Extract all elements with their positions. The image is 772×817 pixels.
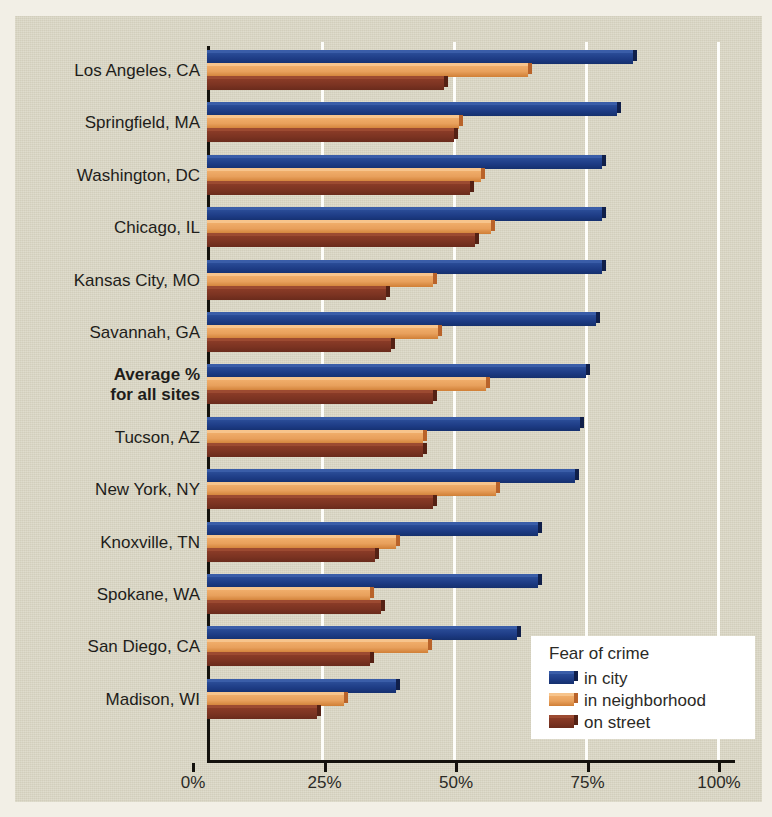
bar-end-face	[602, 207, 606, 218]
category-label: San Diego, CA	[0, 637, 200, 657]
bar-end-face	[396, 679, 400, 690]
bar-end-face	[459, 115, 463, 126]
bar-end-face	[423, 443, 427, 454]
x-tick	[455, 763, 458, 772]
legend-item-street: on street	[549, 712, 755, 734]
legend-item-city: in city	[549, 668, 755, 690]
bar-end-face	[433, 495, 437, 506]
category-label: Los Angeles, CA	[0, 61, 200, 81]
bar-front-face	[207, 341, 391, 352]
x-tick	[587, 763, 590, 772]
bar-end-face	[433, 273, 437, 284]
x-tick	[324, 763, 327, 772]
bar-street	[207, 79, 444, 90]
bar-front-face	[207, 708, 317, 719]
category-label: Kansas City, MO	[0, 271, 200, 291]
category-label: Knoxville, TN	[0, 533, 200, 553]
bar-end-face	[423, 430, 427, 441]
bar-front-face	[207, 79, 444, 90]
bar-row: Washington, DC	[15, 154, 762, 200]
chart-plot-area: Los Angeles, CASpringfield, MAWashington…	[15, 16, 762, 802]
category-label: New York, NY	[0, 480, 200, 500]
legend-label: in neighborhood	[584, 691, 706, 711]
bar-row: New York, NY	[15, 468, 762, 514]
legend-swatch-city	[549, 674, 574, 684]
bar-front-face	[207, 289, 386, 300]
bar-front-face	[207, 655, 370, 666]
category-label: Spokane, WA	[0, 585, 200, 605]
bar-row: Knoxville, TN	[15, 521, 762, 567]
bar-end-face	[344, 692, 348, 703]
bar-street	[207, 551, 375, 562]
bar-end-face	[396, 535, 400, 546]
bar-row: Los Angeles, CA	[15, 49, 762, 95]
x-tick-label: 25%	[307, 773, 341, 793]
bar-end-face	[596, 312, 600, 323]
bar-end-face	[496, 482, 500, 493]
bar-end-face	[633, 50, 637, 61]
bar-street	[207, 446, 423, 457]
bar-end-face	[428, 639, 432, 650]
bar-row: Average % for all sites	[15, 363, 762, 409]
bar-front-face	[207, 236, 475, 247]
x-axis-line	[207, 760, 735, 763]
bar-row: Spokane, WA	[15, 573, 762, 619]
bar-end-face	[370, 652, 374, 663]
bar-end-face	[375, 548, 379, 559]
bar-end-face	[586, 364, 590, 375]
bar-end-face	[475, 233, 479, 244]
legend-items: in cityin neighborhoodon street	[549, 668, 755, 734]
bar-street	[207, 131, 454, 142]
bar-street	[207, 498, 433, 509]
x-tick-label: 0%	[181, 773, 206, 793]
bar-end-face	[433, 390, 437, 401]
bar-end-face	[538, 574, 542, 585]
bar-end-face	[391, 338, 395, 349]
bar-end-face	[602, 155, 606, 166]
bar-row: Springfield, MA	[15, 101, 762, 147]
bar-end-face	[481, 168, 485, 179]
category-label: Tucson, AZ	[0, 428, 200, 448]
bar-street	[207, 341, 391, 352]
bar-front-face	[207, 446, 423, 457]
bar-row: Chicago, IL	[15, 206, 762, 252]
category-label: Average % for all sites	[0, 365, 200, 405]
bar-row: Tucson, AZ	[15, 416, 762, 462]
x-tick-label: 75%	[570, 773, 604, 793]
chart-page: Los Angeles, CASpringfield, MAWashington…	[0, 0, 772, 817]
bar-front-face	[207, 393, 433, 404]
bar-front-face	[207, 498, 433, 509]
swatch-front-face	[549, 718, 574, 728]
bar-end-face	[486, 377, 490, 388]
bar-end-face	[528, 63, 532, 74]
swatch-end-face	[574, 715, 578, 725]
bar-street	[207, 655, 370, 666]
swatch-front-face	[549, 696, 574, 706]
x-tick	[718, 763, 721, 772]
legend-item-nbhd: in neighborhood	[549, 690, 755, 712]
bar-end-face	[491, 220, 495, 231]
category-label: Savannah, GA	[0, 323, 200, 343]
bar-end-face	[580, 417, 584, 428]
bar-end-face	[386, 286, 390, 297]
bar-end-face	[317, 705, 321, 716]
bar-end-face	[470, 181, 474, 192]
bar-front-face	[207, 184, 470, 195]
bar-end-face	[517, 626, 521, 637]
bar-row: Savannah, GA	[15, 311, 762, 357]
bar-street	[207, 708, 317, 719]
category-label: Springfield, MA	[0, 113, 200, 133]
bar-front-face	[207, 131, 454, 142]
bar-street	[207, 236, 475, 247]
bar-end-face	[438, 325, 442, 336]
legend-label: on street	[584, 713, 650, 733]
bar-end-face	[370, 587, 374, 598]
bar-street	[207, 184, 470, 195]
swatch-end-face	[574, 671, 578, 681]
category-label: Chicago, IL	[0, 218, 200, 238]
bar-front-face	[207, 603, 381, 614]
legend-swatch-nbhd	[549, 696, 574, 706]
category-label: Washington, DC	[0, 166, 200, 186]
swatch-front-face	[549, 674, 574, 684]
bar-street	[207, 603, 381, 614]
